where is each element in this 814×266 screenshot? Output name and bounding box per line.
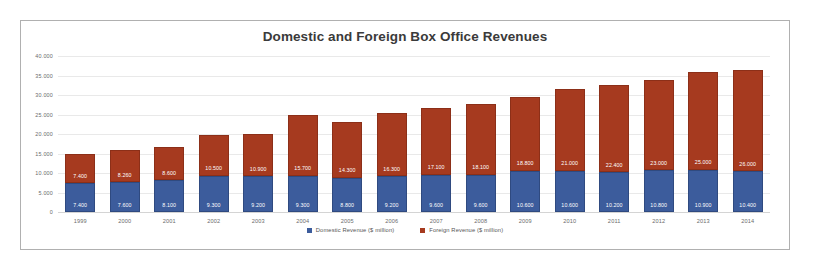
bar-segment-domestic[interactable]: 9.200 <box>243 176 273 212</box>
bar-segment-foreign[interactable]: 21.000 <box>555 89 585 171</box>
legend-item-foreign[interactable]: Foreign Revenue ($ million) <box>420 227 503 233</box>
bar-segment-domestic[interactable]: 9.200 <box>377 176 407 212</box>
bar-value-label: 8.260 <box>118 173 132 181</box>
bar-segment-domestic[interactable]: 10.600 <box>510 171 540 212</box>
bar-value-label: 8.800 <box>340 203 354 211</box>
bar-group[interactable]: 8.6008.1002001 <box>154 56 184 212</box>
bar-segment-domestic[interactable]: 7.400 <box>65 183 95 212</box>
bar-group[interactable]: 25.00010.9002013 <box>688 56 718 212</box>
x-axis-tick-label: 2006 <box>385 218 398 224</box>
bar-value-label: 7.600 <box>118 203 132 211</box>
bar-group[interactable]: 16.3009.2002006 <box>377 56 407 212</box>
bar-segment-domestic[interactable]: 9.600 <box>421 175 451 212</box>
bar-group[interactable]: 21.00010.6002010 <box>555 56 585 212</box>
y-axis-tick-label: 25.000 <box>35 112 53 118</box>
bar-segment-domestic[interactable]: 10.400 <box>733 171 763 212</box>
bar-group[interactable]: 23.00010.8002012 <box>644 56 674 212</box>
bar-group[interactable]: 18.80010.6002009 <box>510 56 540 212</box>
bar-segment-foreign[interactable]: 8.260 <box>110 150 140 182</box>
bar-series: 7.4007.40019998.2607.60020008.6008.10020… <box>58 56 770 212</box>
bar-value-label: 18.100 <box>472 165 489 173</box>
x-axis-tick-label: 2008 <box>474 218 487 224</box>
bar-value-label: 9.300 <box>296 203 310 211</box>
y-axis-tick-label: 0 <box>50 209 53 215</box>
bar-segment-foreign[interactable]: 16.300 <box>377 113 407 177</box>
legend-label: Foreign Revenue ($ million) <box>429 227 503 233</box>
bar-value-label: 9.600 <box>429 203 443 211</box>
bar-value-label: 16.300 <box>383 167 400 175</box>
bar-segment-domestic[interactable]: 8.100 <box>154 180 184 212</box>
bar-value-label: 10.600 <box>517 203 534 211</box>
bar-value-label: 9.200 <box>385 203 399 211</box>
bar-value-label: 10.500 <box>205 166 222 174</box>
bar-segment-foreign[interactable]: 18.100 <box>466 104 496 175</box>
bar-segment-foreign[interactable]: 25.000 <box>688 72 718 170</box>
bar-value-label: 10.800 <box>650 203 667 211</box>
bar-segment-domestic[interactable]: 10.900 <box>688 170 718 213</box>
x-axis-tick-label: 2004 <box>296 218 309 224</box>
bar-group[interactable]: 15.7009.3002004 <box>288 56 318 212</box>
bar-value-label: 14.300 <box>339 168 356 176</box>
bar-value-label: 9.600 <box>474 203 488 211</box>
x-axis-tick-label: 2000 <box>118 218 131 224</box>
y-axis-tick-label: 10.000 <box>35 170 53 176</box>
bar-segment-foreign[interactable]: 14.300 <box>332 122 362 178</box>
x-axis-tick-label: 2007 <box>430 218 443 224</box>
bar-value-label: 9.300 <box>207 203 221 211</box>
y-axis-tick-label: 15.000 <box>35 151 53 157</box>
x-axis-tick-label: 2011 <box>608 218 621 224</box>
bar-value-label: 8.600 <box>162 171 176 179</box>
bar-value-label: 21.000 <box>561 161 578 169</box>
bar-value-label: 8.100 <box>162 203 176 211</box>
bar-value-label: 7.400 <box>73 174 87 182</box>
x-axis-tick-label: 2003 <box>252 218 265 224</box>
x-axis-tick-label: 2014 <box>741 218 754 224</box>
bar-value-label: 9.200 <box>251 203 265 211</box>
bar-group[interactable]: 10.5009.3002002 <box>199 56 229 212</box>
bar-segment-foreign[interactable]: 7.400 <box>65 154 95 183</box>
bar-group[interactable]: 26.00010.4002014 <box>733 56 763 212</box>
bar-segment-foreign[interactable]: 8.600 <box>154 147 184 181</box>
bar-segment-domestic[interactable]: 10.600 <box>555 171 585 212</box>
bar-segment-foreign[interactable]: 10.500 <box>199 135 229 176</box>
bar-value-label: 22.400 <box>606 163 623 171</box>
bar-segment-foreign[interactable]: 10.900 <box>243 134 273 177</box>
y-axis-tick-label: 30.000 <box>35 92 53 98</box>
x-axis-tick-label: 2009 <box>519 218 532 224</box>
bar-value-label: 17.100 <box>428 165 445 173</box>
legend-item-domestic[interactable]: Domestic Revenue ($ million) <box>307 227 395 233</box>
legend-swatch-icon <box>307 228 312 233</box>
bar-group[interactable]: 22.40010.2002011 <box>599 56 629 212</box>
bar-group[interactable]: 10.9009.2002003 <box>243 56 273 212</box>
bar-segment-domestic[interactable]: 8.800 <box>332 178 362 212</box>
legend-swatch-icon <box>420 228 425 233</box>
legend-label: Domestic Revenue ($ million) <box>316 227 395 233</box>
bar-segment-domestic[interactable]: 10.800 <box>644 170 674 212</box>
bar-value-label: 10.900 <box>250 167 267 175</box>
bar-segment-foreign[interactable]: 26.000 <box>733 70 763 171</box>
bar-segment-domestic[interactable]: 9.300 <box>288 176 318 212</box>
bar-segment-foreign[interactable]: 15.700 <box>288 115 318 176</box>
bar-segment-domestic[interactable]: 10.200 <box>599 172 629 212</box>
bar-value-label: 7.400 <box>73 203 87 211</box>
x-axis-tick-label: 2012 <box>652 218 665 224</box>
y-axis-tick-label: 5.000 <box>39 190 54 196</box>
bar-group[interactable]: 14.3008.8002005 <box>332 56 362 212</box>
bar-group[interactable]: 17.1009.6002007 <box>421 56 451 212</box>
bar-segment-foreign[interactable]: 17.100 <box>421 108 451 175</box>
bar-segment-foreign[interactable]: 18.800 <box>510 97 540 170</box>
bar-segment-domestic[interactable]: 9.600 <box>466 175 496 212</box>
x-axis-tick-label: 2001 <box>163 218 176 224</box>
bar-group[interactable]: 18.1009.6002008 <box>466 56 496 212</box>
bar-group[interactable]: 7.4007.4001999 <box>65 56 95 212</box>
bar-value-label: 15.700 <box>294 166 311 174</box>
bar-segment-foreign[interactable]: 23.000 <box>644 80 674 170</box>
chart-container: Domestic and Foreign Box Office Revenues… <box>20 20 790 250</box>
bar-segment-foreign[interactable]: 22.400 <box>599 85 629 172</box>
bar-group[interactable]: 8.2607.6002000 <box>110 56 140 212</box>
x-axis-tick-label: 2010 <box>563 218 576 224</box>
bar-segment-domestic[interactable]: 9.300 <box>199 176 229 212</box>
x-axis-tick-label: 2002 <box>207 218 220 224</box>
bar-segment-domestic[interactable]: 7.600 <box>110 182 140 212</box>
bar-value-label: 23.000 <box>650 161 667 169</box>
